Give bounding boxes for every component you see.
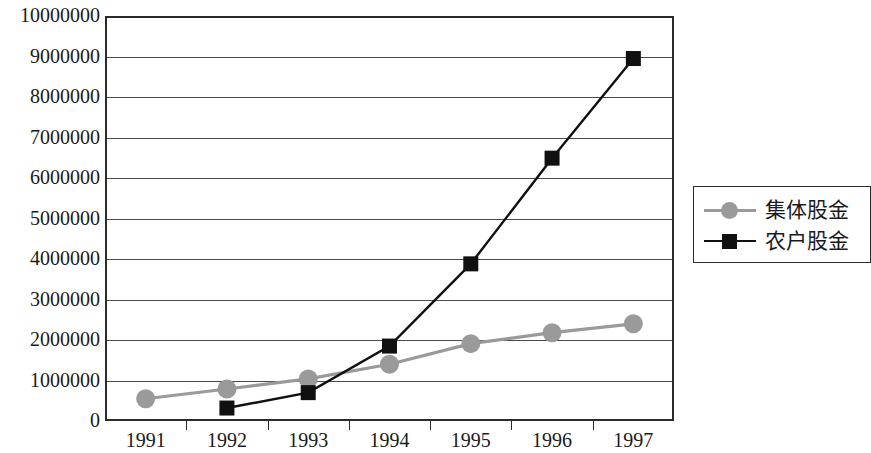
y-tick-label: 5000000	[0, 208, 100, 228]
y-tick-label: 9000000	[0, 46, 100, 66]
y-tick-label: 6000000	[0, 167, 100, 187]
legend-label-series-b: 农户股金	[765, 229, 849, 253]
legend-label-series-a: 集体股金	[765, 198, 849, 222]
y-tick-label: 10000000	[0, 5, 100, 25]
x-tick-label: 1994	[345, 428, 435, 452]
y-tick-label: 7000000	[0, 127, 100, 147]
square-marker-icon	[382, 339, 397, 354]
y-tick-label: 2000000	[0, 329, 100, 349]
x-axis: 1991199219931994199519961997	[105, 428, 674, 453]
circle-marker-icon	[136, 389, 155, 408]
y-tick-label: 3000000	[0, 289, 100, 309]
circle-marker-icon	[624, 314, 643, 333]
square-marker-icon	[704, 231, 756, 251]
x-tick-label: 1991	[101, 428, 191, 452]
square-marker-icon	[463, 256, 478, 271]
data-series-layer	[105, 16, 674, 421]
legend-item-series-b: 农户股金	[704, 225, 870, 256]
x-tick-label: 1992	[182, 428, 272, 452]
x-tick-label: 1997	[588, 428, 678, 452]
y-tick-label: 4000000	[0, 248, 100, 268]
y-tick-label: 1000000	[0, 370, 100, 390]
square-marker-icon	[301, 385, 316, 400]
square-marker-icon	[626, 51, 641, 66]
legend: 集体股金 农户股金	[693, 186, 871, 263]
square-marker-icon	[545, 151, 560, 166]
circle-marker-icon	[217, 380, 236, 399]
circle-marker-icon	[461, 334, 480, 353]
y-axis: 0100000020000003000000400000050000006000…	[0, 0, 100, 453]
square-marker-icon	[219, 401, 234, 416]
x-tick-label: 1995	[426, 428, 516, 452]
legend-item-series-a: 集体股金	[704, 194, 870, 225]
x-tick-label: 1993	[263, 428, 353, 452]
circle-marker-icon	[380, 355, 399, 374]
y-tick-label: 8000000	[0, 86, 100, 106]
circle-marker-icon	[704, 200, 756, 220]
y-tick-label: 0	[0, 410, 100, 430]
x-tick-label: 1996	[507, 428, 597, 452]
circle-marker-icon	[543, 323, 562, 342]
